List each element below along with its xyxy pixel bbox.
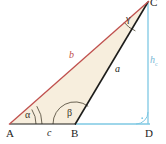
- side-label-b: b: [69, 50, 74, 60]
- vertex-label-a: A: [6, 128, 14, 139]
- side-label-a: a: [115, 64, 120, 74]
- vertex-label-d: D: [145, 128, 153, 139]
- right-angle-dot-icon: [141, 117, 143, 119]
- angle-label-beta: β: [67, 108, 72, 118]
- geometry-canvas: [0, 0, 166, 144]
- angle-label-alpha: α: [25, 110, 30, 120]
- vertex-label-b: B: [71, 128, 78, 139]
- angle-label-gamma: γ: [126, 14, 130, 24]
- vertex-label-c: C: [150, 0, 157, 8]
- height-label-hc-sub: c: [155, 61, 158, 67]
- side-label-c: c: [47, 128, 51, 138]
- geometry-diagram: A B C D b a c α β γ hc: [0, 0, 166, 144]
- height-label-hc: hc: [150, 55, 158, 67]
